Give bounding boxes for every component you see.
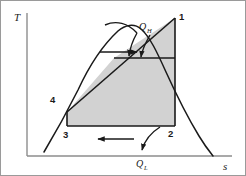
ql-subscript: L (143, 164, 148, 171)
state-label-2: 2 (168, 128, 173, 139)
state-label-3: 3 (63, 129, 68, 140)
state-label-4: 4 (50, 94, 56, 105)
state-label-1: 1 (179, 11, 185, 22)
x-axis-label: s (223, 160, 227, 172)
qh-symbol: Q (139, 21, 147, 32)
figure-container: T s (0, 0, 246, 176)
qh-subscript: H (146, 27, 152, 34)
ql-symbol: Q (136, 158, 144, 169)
ts-diagram-canvas: T s (0, 0, 246, 176)
y-axis-label: T (14, 11, 21, 23)
